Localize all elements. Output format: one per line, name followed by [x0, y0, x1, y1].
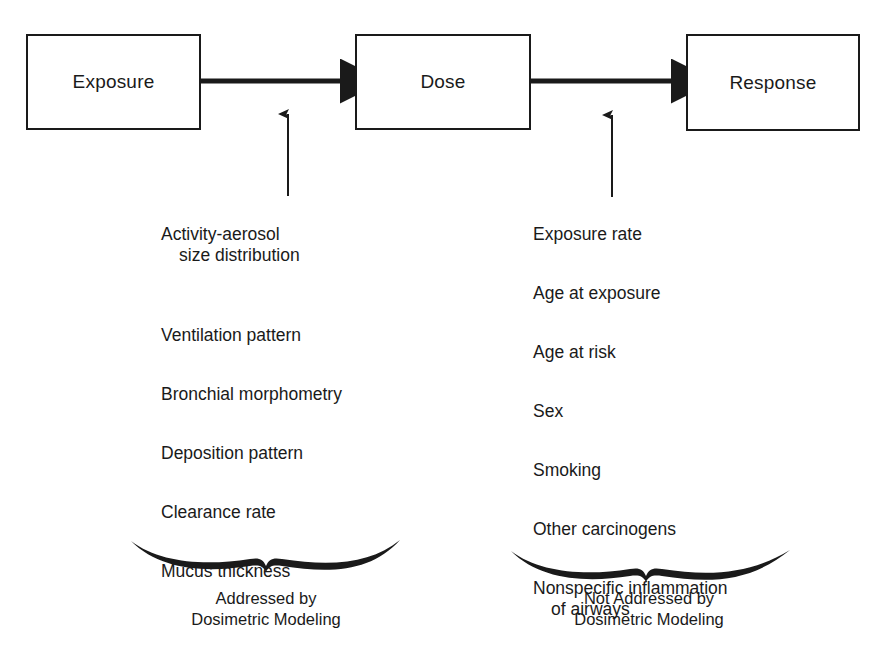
node-label-exposure: Exposure [73, 71, 155, 93]
list-item: Deposition pattern [161, 422, 342, 464]
list-item: Age at exposure [533, 262, 728, 304]
node-label-dose: Dose [420, 71, 465, 93]
factor-line-1: Exposure rate [533, 224, 642, 244]
node-box-exposure[interactable]: Exposure [26, 34, 201, 130]
caption-not-addressed-by: Not Addressed by Dosimetric Modeling [505, 588, 793, 630]
list-item: Activity-aerosol size distribution [161, 203, 342, 287]
factor-line-2: size distribution [161, 245, 342, 266]
factor-line-1: Bronchial morphometry [161, 384, 342, 404]
factor-line-1: Age at exposure [533, 283, 660, 303]
left-factor-list: Activity-aerosol size distribution Venti… [161, 203, 342, 599]
factor-line-1: Clearance rate [161, 502, 276, 522]
node-box-response[interactable]: Response [686, 34, 860, 131]
list-item: Clearance rate [161, 481, 342, 523]
factor-line-1: Activity-aerosol [161, 224, 280, 244]
factor-line-1: Sex [533, 401, 563, 421]
diagram-canvas: Exposure Dose Response Activity-aerosol … [0, 0, 885, 668]
list-item: Age at risk [533, 321, 728, 363]
list-item: Mucus thickness [161, 540, 342, 582]
factor-line-1: Other carcinogens [533, 519, 676, 539]
factor-line-1: Mucus thickness [161, 561, 290, 581]
factor-line-1: Deposition pattern [161, 443, 303, 463]
factor-line-1: Age at risk [533, 342, 616, 362]
caption-line-2: Dosimetric Modeling [505, 609, 793, 630]
caption-addressed-by: Addressed by Dosimetric Modeling [130, 588, 402, 630]
caption-line-1: Not Addressed by [505, 588, 793, 609]
list-item: Other carcinogens [533, 498, 728, 540]
node-box-dose[interactable]: Dose [355, 34, 531, 130]
list-item: Bronchial morphometry [161, 363, 342, 405]
list-item: Smoking [533, 439, 728, 481]
node-label-response: Response [729, 72, 816, 94]
factor-line-1: Smoking [533, 460, 601, 480]
caption-line-2: Dosimetric Modeling [130, 609, 402, 630]
caption-line-1: Addressed by [130, 588, 402, 609]
list-item: Sex [533, 380, 728, 422]
list-item: Ventilation pattern [161, 304, 342, 346]
list-item: Exposure rate [533, 203, 728, 245]
factor-line-1: Ventilation pattern [161, 325, 301, 345]
